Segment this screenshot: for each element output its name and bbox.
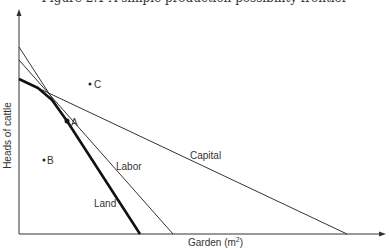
x-axis-label-main: Garden (m xyxy=(188,237,236,248)
point-c-label: C xyxy=(94,79,101,90)
point-c-marker xyxy=(89,83,92,86)
point-a-label: A xyxy=(71,117,78,128)
ppf-chart: A B C Capital Labor Land xyxy=(0,0,389,250)
y-axis-label: Heads of cattle xyxy=(2,91,13,181)
land-label: Land xyxy=(94,198,116,209)
point-b-marker xyxy=(43,159,46,162)
capital-constraint-line xyxy=(19,79,347,234)
point-b-label: B xyxy=(47,155,54,166)
capital-label: Capital xyxy=(190,150,221,161)
frontier-line xyxy=(19,79,140,234)
x-axis-label: Garden (m2) xyxy=(188,236,243,248)
y-axis-arrow-icon xyxy=(17,9,22,16)
labor-label: Labor xyxy=(116,161,142,172)
point-a-marker xyxy=(65,119,70,124)
x-axis-arrow-icon xyxy=(379,232,386,237)
x-axis-label-close: ) xyxy=(240,237,243,248)
